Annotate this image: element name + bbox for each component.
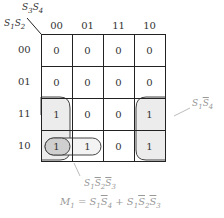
col-header: 11 [103, 20, 134, 31]
col-header: 10 [134, 20, 165, 31]
kmap-cell: 1 [134, 130, 165, 162]
row-header: 00 [18, 44, 31, 55]
kmap-cell: 1 [134, 98, 165, 130]
kmap-cell: 0 [41, 34, 72, 66]
col-header: 00 [41, 20, 72, 31]
kmap-cell: 0 [72, 34, 103, 66]
kmap-cell: 0 [72, 98, 103, 130]
kmap-cell: 1 [41, 130, 72, 162]
equation: M1 = S1S4 + S1S2S3 [60, 196, 161, 210]
row-vars-label: S1S2 [4, 18, 25, 31]
kmap-cell: 1 [41, 98, 72, 130]
kmap-cell: 0 [103, 34, 134, 66]
kmap-cell: 0 [134, 34, 165, 66]
kmap-cell: 0 [103, 130, 134, 162]
group2-annotation: S1S2S3 [84, 178, 116, 191]
kmap-cell: 0 [72, 66, 103, 98]
row-header: 11 [18, 108, 31, 119]
row-header: 10 [18, 140, 31, 151]
col-vars-label: S3S4 [22, 2, 43, 15]
kmap-cell: 0 [41, 66, 72, 98]
col-header: 01 [72, 20, 103, 31]
kmap-cell: 1 [72, 130, 103, 162]
kmap-cell: 0 [103, 66, 134, 98]
kmap-cell: 0 [103, 98, 134, 130]
row-header: 01 [18, 76, 31, 87]
kmap-cell: 0 [134, 66, 165, 98]
group1-annotation: S1S4 [192, 98, 213, 111]
